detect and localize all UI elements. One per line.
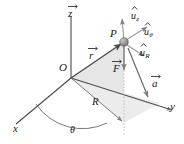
r-vector-label: r (89, 50, 93, 61)
u-R-subscript: R (145, 52, 149, 60)
u-theta-unit-vector-label: uθ (144, 27, 153, 39)
z-axis-label: z (68, 8, 72, 19)
y-axis-label: y (170, 101, 175, 112)
F-vector-label: F (113, 63, 120, 74)
x-axis-label: x (13, 123, 18, 134)
coordinate-diagram-svg (0, 0, 184, 144)
R-vector-label: R (92, 96, 99, 107)
u-R-unit-vector-label: uR (140, 48, 149, 60)
theta-angle-label: θ (70, 125, 75, 135)
x-axis (16, 78, 71, 124)
point-P-marker (120, 38, 129, 47)
a-vector-label: a (152, 78, 158, 89)
u-z-subscript: z (136, 15, 139, 23)
point-P-label: P (110, 28, 117, 39)
u-z-unit-vector-label: uz (131, 11, 139, 23)
u-theta-subscript: θ (149, 31, 152, 39)
origin-label: O (59, 62, 67, 73)
figure-container: z x y O P r F a R θ uz uθ uR (0, 0, 184, 144)
